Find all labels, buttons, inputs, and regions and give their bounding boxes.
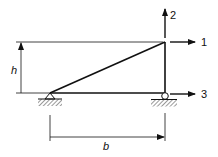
- b-label: b: [103, 140, 109, 152]
- member-diagonal: [50, 42, 165, 93]
- h-label: h: [11, 64, 17, 76]
- dof-3-label: 3: [201, 88, 207, 100]
- dof-2-label: 2: [170, 9, 176, 21]
- pin-support: [38, 93, 62, 106]
- roller-support: [151, 93, 177, 107]
- dof-1-label: 1: [201, 36, 207, 48]
- truss-diagram: h 2 1 3 b: [0, 0, 218, 157]
